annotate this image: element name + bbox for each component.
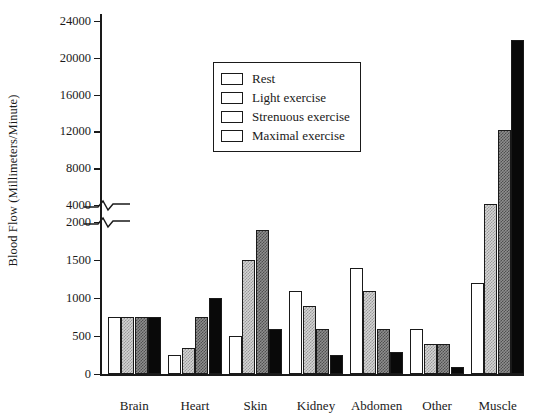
bar bbox=[363, 291, 376, 375]
legend-label-strenuous-exercise: Strenuous exercise bbox=[252, 110, 350, 123]
bar-group bbox=[108, 14, 162, 374]
bar-chart: Blood Flow (Millimeters/Minute) 05001000… bbox=[0, 0, 540, 415]
bar bbox=[168, 355, 181, 374]
y-axis-title: Blood Flow (Millimeters/Minute) bbox=[2, 0, 26, 360]
bar bbox=[410, 329, 423, 375]
bar bbox=[377, 329, 390, 375]
bar bbox=[242, 260, 255, 374]
legend-item-maximal-exercise: Maximal exercise bbox=[221, 126, 350, 145]
bar bbox=[182, 348, 195, 375]
bar bbox=[511, 40, 524, 375]
legend-item-rest: Rest bbox=[221, 69, 350, 88]
legend: Rest Light exercise Strenuous exercise M… bbox=[213, 62, 361, 152]
legend-label-maximal-exercise: Maximal exercise bbox=[252, 129, 345, 142]
y-axis-tick-label: 8000 bbox=[66, 162, 91, 175]
bar bbox=[256, 230, 269, 374]
x-axis-category-label: Heart bbox=[180, 398, 209, 414]
y-axis-tick-label: 0 bbox=[85, 368, 91, 381]
bar bbox=[209, 298, 222, 374]
bar bbox=[316, 329, 329, 375]
y-axis-tick-label: 1000 bbox=[66, 292, 91, 305]
bar bbox=[437, 344, 450, 374]
x-axis-category-label: Muscle bbox=[479, 398, 517, 414]
bar bbox=[451, 367, 464, 375]
x-axis-category-label: Brain bbox=[120, 398, 149, 414]
bar-group bbox=[410, 14, 464, 374]
bar bbox=[135, 317, 148, 374]
y-axis-tick-label: 20000 bbox=[60, 52, 91, 65]
bar bbox=[498, 130, 511, 375]
bar bbox=[424, 344, 437, 374]
legend-swatch-rest bbox=[221, 73, 243, 85]
x-axis-line bbox=[100, 374, 524, 376]
legend-label-light-exercise: Light exercise bbox=[252, 91, 326, 104]
x-axis-category-label: Other bbox=[422, 398, 452, 414]
legend-swatch-strenuous-exercise bbox=[221, 111, 243, 123]
bar bbox=[350, 268, 363, 374]
bar bbox=[229, 336, 242, 374]
bar bbox=[108, 317, 121, 374]
x-axis-category-label: Kidney bbox=[297, 398, 335, 414]
bar-group bbox=[471, 14, 525, 374]
y-axis-title-text: Blood Flow (Millimeters/Minute) bbox=[7, 94, 22, 266]
bar bbox=[471, 283, 484, 374]
y-axis-tick-label: 1500 bbox=[66, 254, 91, 267]
legend-swatch-light-exercise bbox=[221, 92, 243, 104]
bar bbox=[195, 317, 208, 374]
x-axis-category-label: Skin bbox=[244, 398, 268, 414]
bar bbox=[148, 317, 161, 374]
y-axis-tick-label: 24000 bbox=[60, 15, 91, 28]
y-axis-tick-label: 16000 bbox=[60, 88, 91, 101]
y-axis-tick-label: 12000 bbox=[60, 125, 91, 138]
bar bbox=[330, 355, 343, 374]
x-axis-category-label: Abdomen bbox=[351, 398, 402, 414]
legend-item-light-exercise: Light exercise bbox=[221, 88, 350, 107]
y-axis-tick-label: 500 bbox=[72, 330, 91, 343]
legend-item-strenuous-exercise: Strenuous exercise bbox=[221, 107, 350, 126]
bar bbox=[289, 291, 302, 375]
legend-label-rest: Rest bbox=[252, 72, 275, 85]
bar bbox=[303, 306, 316, 374]
bar bbox=[390, 352, 403, 375]
bar bbox=[484, 204, 497, 375]
bar bbox=[121, 317, 134, 374]
bar bbox=[269, 329, 282, 375]
legend-swatch-maximal-exercise bbox=[221, 130, 243, 142]
